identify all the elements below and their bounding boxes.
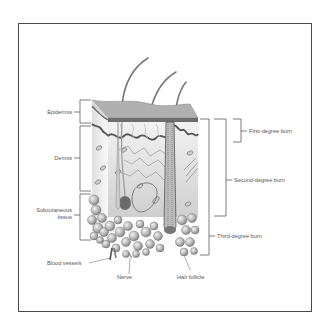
label-epidermis: Epidermis — [47, 109, 72, 116]
epidermis-layer — [92, 100, 198, 122]
label-subcutaneous-line2: tissue — [36, 214, 72, 221]
label-blood-vessels: Blood vessels — [47, 260, 82, 267]
label-first-degree-burn: First-degree burn — [249, 128, 292, 135]
label-dermis: Dermis — [54, 155, 72, 162]
label-subcutaneous-line1: Subcutaneous — [36, 207, 72, 214]
leader-lines — [89, 255, 190, 274]
label-third-degree-burn: Third-degree burn — [217, 233, 262, 240]
label-second-degree-burn: Second-degree burn — [234, 177, 285, 184]
skin-cross-section-illustration — [0, 0, 325, 328]
label-hair-follicle: Hair follicle — [177, 274, 204, 281]
label-nerve: Nerve — [117, 274, 132, 281]
label-subcutaneous-tissue: Subcutaneous tissue — [36, 207, 72, 220]
